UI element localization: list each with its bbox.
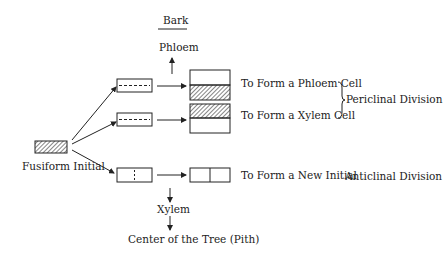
center-of-tree-label: Center of the Tree (Pith) (128, 234, 259, 245)
fusiform-initial-label: Fusiform Initial (22, 161, 105, 172)
phloem-result-top (190, 70, 230, 85)
new-initial-label: To Form a New Initial (241, 170, 357, 181)
xylem-label: Xylem (157, 204, 190, 215)
diagram-canvas (0, 0, 444, 260)
periclinal-label: Periclinal Division (346, 94, 442, 105)
xylem-cell-label: To Form a Xylem Cell (241, 110, 355, 121)
xylem-result-bottom (190, 118, 230, 133)
bark-label: Bark (163, 15, 188, 26)
arrow-to-mid (72, 122, 116, 144)
phloem-cell-label: To Form a Phloem Cell (241, 78, 362, 89)
phloem-result-hatched (190, 85, 230, 100)
xylem-result-hatched (190, 104, 230, 118)
arrow-to-top (72, 87, 116, 140)
phloem-label: Phloem (159, 42, 199, 53)
fusiform-initial-cell (35, 141, 67, 153)
anticlinal-label: Anticlinal Division (345, 171, 442, 182)
